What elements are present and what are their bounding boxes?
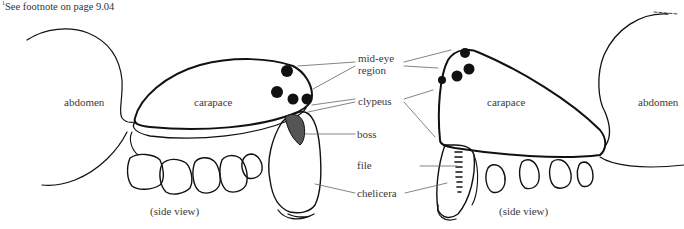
leader-mid-eye-left-b xyxy=(313,66,355,89)
leader-clypeus-right-a xyxy=(404,90,433,99)
spider-drawings xyxy=(0,0,684,229)
right-file-ridges xyxy=(455,152,462,192)
leader-clypeus-right-b xyxy=(404,102,435,137)
left-eye xyxy=(302,94,313,105)
boss-label: boss xyxy=(357,128,377,140)
diagram-canvas: 1See footnote on page 9.04 xyxy=(0,0,684,229)
left-carapace-label: carapace xyxy=(194,96,232,108)
left-eye xyxy=(271,86,283,98)
left-leg xyxy=(128,154,164,189)
left-view-label: (side view) xyxy=(150,205,199,217)
right-abdomen-label: abdomen xyxy=(638,96,678,108)
left-leg xyxy=(193,158,220,193)
file-label: file xyxy=(357,159,372,171)
left-spider-drawing xyxy=(27,29,355,219)
clypeus-label: clypeus xyxy=(358,95,392,107)
left-eye xyxy=(288,94,299,105)
mid-eye-region-label-line1: mid-eye xyxy=(358,52,394,64)
left-eye xyxy=(281,65,293,77)
left-boss xyxy=(285,114,305,145)
leader-chelicera-right xyxy=(405,183,447,193)
right-eye xyxy=(460,48,470,58)
right-carapace-label: carapace xyxy=(487,96,525,108)
leader-mid-eye-right-a xyxy=(404,50,451,62)
leader-mid-eye-right-b xyxy=(404,66,438,68)
right-eye xyxy=(464,64,475,75)
leader-chelicera-left xyxy=(315,184,355,193)
right-leg xyxy=(577,162,593,187)
left-abdomen-lower xyxy=(42,132,127,185)
left-carapace-rim xyxy=(133,108,306,138)
right-leg xyxy=(486,165,505,193)
leader-clypeus-left-b xyxy=(308,102,355,112)
leader-mid-eye-left-a xyxy=(298,62,355,66)
mid-eye-region-label-line2: region xyxy=(358,64,386,76)
leader-clypeus-left-a xyxy=(312,99,355,105)
right-leg xyxy=(520,160,540,189)
right-abdomen-outline xyxy=(599,14,668,145)
left-fang xyxy=(278,210,314,219)
right-chelicera xyxy=(437,145,475,217)
left-leg xyxy=(160,159,192,194)
right-leg xyxy=(550,160,572,189)
chelicera-label: chelicera xyxy=(357,187,397,199)
left-leg xyxy=(130,132,138,155)
right-abdomen-lower xyxy=(600,157,684,167)
right-eye xyxy=(452,71,463,82)
right-eye xyxy=(438,76,446,84)
right-spider-drawing xyxy=(404,12,684,220)
right-view-label: (side view) xyxy=(499,205,548,217)
left-abdomen-label: abdomen xyxy=(64,96,104,108)
left-abdomen-outline xyxy=(27,29,135,122)
